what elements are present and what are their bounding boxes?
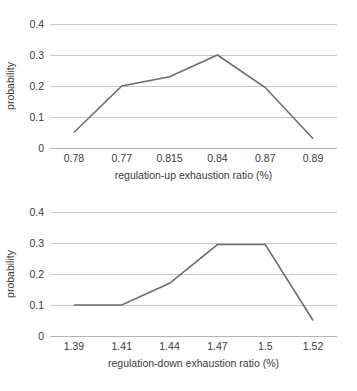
y-tick-label: 0.1 xyxy=(29,111,44,123)
x-tick-label: 1.47 xyxy=(207,340,228,352)
x-axis-title: regulation-down exhaustion ratio (%) xyxy=(108,357,279,369)
y-tick-label: 0.4 xyxy=(29,206,44,218)
chart-regulation-down-canvas: 00.10.20.30.41.391.411.441.471.51.52regu… xyxy=(0,190,357,391)
x-tick-label: 1.52 xyxy=(303,340,324,352)
y-tick-label: 0.3 xyxy=(29,237,44,249)
chart-regulation-down: 00.10.20.30.41.391.411.441.471.51.52regu… xyxy=(0,190,357,391)
y-tick-label: 0 xyxy=(38,330,44,342)
x-tick-label: 1.44 xyxy=(159,340,180,352)
y-tick-label: 0 xyxy=(38,142,44,154)
y-tick-label: 0.4 xyxy=(29,18,44,30)
chart-regulation-up-canvas: 00.10.20.30.40.780.770.8150.840.870.89re… xyxy=(0,0,357,196)
x-tick-label: 1.39 xyxy=(64,340,85,352)
y-axis-title: probability xyxy=(4,249,16,298)
y-tick-label: 0.3 xyxy=(29,49,44,61)
series-line xyxy=(74,55,313,139)
y-tick-label: 0.2 xyxy=(29,268,44,280)
x-tick-label: 1.41 xyxy=(112,340,133,352)
x-axis-title: regulation-up exhaustion ratio (%) xyxy=(115,169,273,181)
series-line xyxy=(74,245,313,321)
x-tick-label: 0.78 xyxy=(64,152,85,164)
x-tick-label: 0.77 xyxy=(112,152,133,164)
x-tick-label: 0.89 xyxy=(303,152,324,164)
y-tick-label: 0.1 xyxy=(29,299,44,311)
x-tick-label: 0.87 xyxy=(255,152,276,164)
x-tick-label: 0.815 xyxy=(156,152,182,164)
y-tick-label: 0.2 xyxy=(29,80,44,92)
x-tick-label: 1.5 xyxy=(258,340,273,352)
chart-regulation-up: 00.10.20.30.40.780.770.8150.840.870.89re… xyxy=(0,0,357,196)
y-axis-title: probability xyxy=(4,61,16,110)
x-tick-label: 0.84 xyxy=(207,152,228,164)
